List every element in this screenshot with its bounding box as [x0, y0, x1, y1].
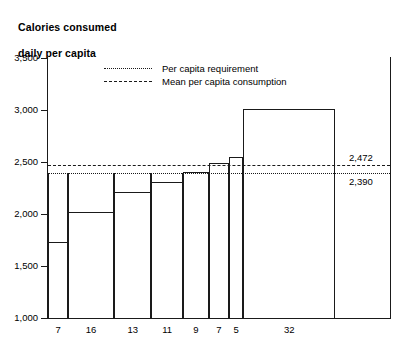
y-axis-tick: [41, 58, 48, 59]
y-axis-tick: [41, 318, 48, 319]
chart-title-line-1: Calories consumed: [18, 21, 117, 33]
plot-right-border: [390, 57, 391, 319]
y-axis-tick: [41, 214, 48, 215]
y-axis-tick-label: 2,500: [14, 157, 38, 167]
legend-key-dashed-icon: [104, 81, 152, 82]
x-axis-line: [47, 318, 391, 319]
y-axis-tick: [41, 266, 48, 267]
y-axis-tick-label: 1,000: [14, 313, 38, 323]
x-axis-label: 7: [48, 324, 68, 335]
mean-consumption-line: [48, 165, 390, 166]
y-axis-tick: [41, 110, 48, 111]
x-axis-label: 9: [183, 324, 209, 335]
x-axis-label: 13: [114, 324, 151, 335]
calorie-deficit-shading: [114, 173, 151, 191]
bar: [68, 212, 114, 318]
y-axis-tick-label: 3,000: [14, 105, 38, 115]
x-axis-labels: 716131197532: [48, 324, 390, 340]
bar: [243, 109, 335, 318]
legend-label-requirement: Per capita requirement: [162, 62, 258, 75]
x-axis-label: 7: [209, 324, 229, 335]
legend-label-mean: Mean per capita consumption: [162, 75, 287, 88]
bar: [183, 172, 209, 318]
chart-container: Calories consumed daily per capita 1,000…: [0, 0, 404, 347]
bar-series: [48, 58, 390, 318]
requirement-value-label: 2,390: [349, 177, 373, 187]
calorie-deficit-shading: [48, 173, 68, 242]
bar: [48, 242, 68, 318]
requirement-line: [48, 173, 390, 174]
y-axis-tick: [41, 162, 48, 163]
bar: [209, 163, 229, 318]
x-axis-label: 32: [243, 324, 335, 335]
y-axis-tick-label: 2,000: [14, 209, 38, 219]
mean-consumption-value-label: 2,472: [349, 153, 373, 163]
y-axis-tick-label: 1,500: [14, 261, 38, 271]
legend-key-dotted-icon: [104, 68, 152, 69]
bar: [229, 157, 243, 318]
x-axis-label: 11: [151, 324, 183, 335]
x-axis-label: 16: [68, 324, 114, 335]
calorie-deficit-shading: [151, 173, 183, 181]
x-axis-label: 5: [229, 324, 243, 335]
bar: [151, 182, 183, 318]
bar: [114, 192, 151, 318]
y-axis-tick-label: 3,500: [14, 53, 38, 63]
calorie-deficit-shading: [68, 173, 114, 211]
